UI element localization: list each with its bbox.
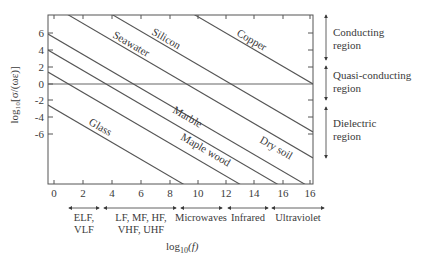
svg-text:-6: -6 — [35, 128, 45, 140]
svg-text:14: 14 — [249, 187, 261, 199]
svg-text:8: 8 — [167, 187, 173, 199]
label-marble: Marble — [171, 103, 205, 129]
svg-text:Ultraviolet: Ultraviolet — [275, 212, 321, 223]
chart: 0 2 4 6 8 10 12 14 16 16 6 4 2 0 -2 -4 -… — [0, 0, 425, 262]
line-glass — [48, 105, 313, 260]
svg-text:Dielectric: Dielectric — [333, 117, 376, 129]
svg-text:Microwaves: Microwaves — [175, 212, 227, 223]
svg-text:16: 16 — [278, 187, 290, 199]
svg-text:region: region — [333, 82, 362, 94]
x-axis-label: log10(f) — [166, 240, 199, 255]
svg-text:Infrared: Infrared — [231, 212, 266, 223]
svg-text:6: 6 — [39, 27, 45, 39]
svg-text:0: 0 — [51, 187, 57, 199]
region-labels: Conducting region Quasi-conducting regio… — [333, 26, 412, 142]
svg-text:VLF: VLF — [74, 224, 94, 235]
svg-text:16: 16 — [305, 187, 317, 199]
label-copper: Copper — [235, 26, 269, 53]
y-tick-labels: 6 4 2 0 -2 -4 -6 — [35, 27, 45, 140]
svg-text:LF, MF, HF,: LF, MF, HF, — [115, 212, 166, 223]
svg-text:region: region — [333, 130, 362, 142]
svg-text:2: 2 — [39, 61, 45, 73]
svg-text:region: region — [333, 39, 362, 51]
label-maple-wood: Maple wood — [179, 130, 233, 168]
svg-text:10: 10 — [193, 187, 205, 199]
label-silicon: Silicon — [150, 25, 183, 51]
y-axis-label: log₁₀[σ/(ωε)] — [8, 66, 21, 123]
label-dry-soil: Dry soil — [258, 133, 295, 161]
line-seawater — [48, 3, 313, 158]
svg-text:12: 12 — [221, 187, 232, 199]
svg-text:ELF,: ELF, — [74, 212, 94, 223]
svg-text:6: 6 — [138, 187, 144, 199]
svg-text:4: 4 — [109, 187, 115, 199]
svg-text:-4: -4 — [35, 111, 45, 123]
band-labels: ELF, VLF LF, MF, HF, VHF, UHF Microwaves… — [74, 212, 321, 235]
svg-text:Quasi-conducting: Quasi-conducting — [333, 69, 412, 81]
svg-text:4: 4 — [39, 44, 45, 56]
x-tick-labels: 0 2 4 6 8 10 12 14 16 16 — [51, 187, 316, 199]
svg-text:2: 2 — [80, 187, 86, 199]
svg-text:0: 0 — [39, 78, 45, 90]
svg-text:Conducting: Conducting — [333, 26, 385, 38]
line-marble — [48, 50, 313, 205]
svg-text:VHF, UHF: VHF, UHF — [118, 224, 165, 235]
label-glass: Glass — [87, 115, 114, 138]
svg-text:-2: -2 — [35, 94, 44, 106]
